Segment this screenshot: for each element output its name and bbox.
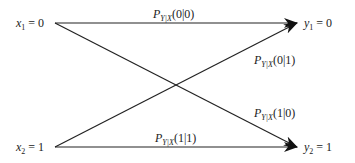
input-x1-label: x1 = 0	[15, 16, 44, 32]
prob-label-0-given-0: PY|X(0|0)	[152, 7, 194, 23]
prob-label-1-given-0: PY|X(1|0)	[253, 106, 295, 122]
input-x2-label: x2 = 1	[15, 140, 44, 156]
binary-channel-diagram: x1 = 0 x2 = 1 y1 = 0 y2 = 1 PY|X(0|0) PY…	[0, 0, 355, 163]
prob-label-0-given-1: PY|X(0|1)	[253, 53, 295, 69]
output-y1-label: y1 = 0	[303, 16, 332, 32]
output-y2-label: y2 = 1	[303, 140, 332, 156]
prob-label-1-given-1: PY|X(1|1)	[154, 131, 196, 147]
